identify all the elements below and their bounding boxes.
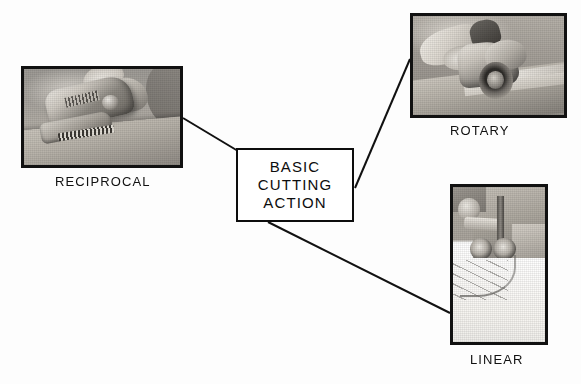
photo-rotary-image <box>413 16 564 115</box>
connector-center-to-rotary <box>355 59 410 188</box>
scan-grain-overlay <box>413 16 564 115</box>
connector-center-to-linear <box>268 222 450 313</box>
center-box-line-2: CUTTING <box>258 176 332 194</box>
scan-grain-overlay <box>453 187 545 342</box>
photo-reciprocal <box>21 66 183 168</box>
center-box-line-3: ACTION <box>263 194 326 212</box>
diagram-canvas: RECIPROCAL ROTARY <box>0 0 581 384</box>
photo-rotary <box>410 13 567 118</box>
connector-center-to-reciprocal <box>183 118 238 151</box>
center-box-line-1: BASIC <box>270 158 321 176</box>
caption-rotary: ROTARY <box>450 123 510 138</box>
center-concept-box: BASIC CUTTING ACTION <box>236 148 354 222</box>
caption-linear: LINEAR <box>470 352 524 367</box>
caption-reciprocal: RECIPROCAL <box>55 174 151 189</box>
photo-reciprocal-image <box>24 69 180 165</box>
photo-linear <box>450 184 548 345</box>
photo-linear-image <box>453 187 545 342</box>
scan-grain-overlay <box>24 69 180 165</box>
